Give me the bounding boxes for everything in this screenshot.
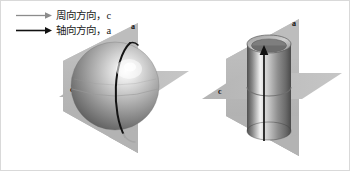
cylinder-diagram: a c [196, 1, 350, 171]
cylinder-body [247, 44, 291, 140]
axial-plane-label-cylinder: a [292, 19, 296, 28]
legend-item-circumferential: 周向方向，c [15, 9, 111, 22]
arrow-right-gray-icon [15, 9, 53, 22]
circumferential-plane-label-cylinder: c [218, 87, 222, 96]
legend: 周向方向，c 轴向方向，a [15, 9, 111, 37]
arrow-right-black-icon [15, 24, 53, 37]
legend-label-circumferential: 周向方向，c [56, 9, 111, 22]
axial-plane-label-sphere: a [131, 22, 135, 31]
legend-item-axial: 轴向方向，a [15, 24, 111, 37]
figure-panel: 周向方向，c 轴向方向，a [0, 0, 350, 171]
legend-label-axial: 轴向方向，a [56, 24, 111, 37]
